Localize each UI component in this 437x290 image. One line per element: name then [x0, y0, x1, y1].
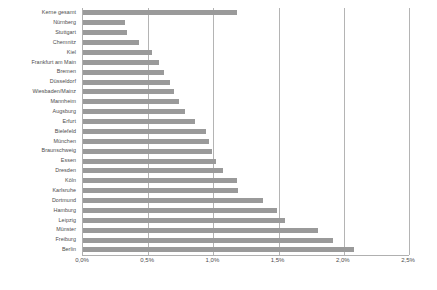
bar — [83, 40, 139, 45]
bar — [83, 139, 209, 144]
bar-row — [83, 215, 409, 225]
bar-row — [83, 136, 409, 146]
category-label: Mannheim — [0, 97, 79, 107]
bar — [83, 60, 159, 65]
category-label: Köln — [0, 176, 79, 186]
bar-row — [83, 18, 409, 28]
x-tick-label: 1,5% — [271, 257, 285, 263]
bar — [83, 89, 174, 94]
bar-row — [83, 186, 409, 196]
x-tick-label: 1,0% — [206, 257, 220, 263]
bar — [83, 80, 170, 85]
bar — [83, 149, 212, 154]
bar-series — [83, 8, 409, 255]
bar — [83, 159, 216, 164]
category-label: Kerne gesamt — [0, 8, 79, 18]
bar-row — [83, 245, 409, 255]
category-label: Stuttgart — [0, 28, 79, 38]
bar-row — [83, 146, 409, 156]
category-label: München — [0, 136, 79, 146]
category-label: Essen — [0, 156, 79, 166]
category-label: Chemnitz — [0, 38, 79, 48]
bar — [83, 247, 354, 252]
bar-row — [83, 28, 409, 38]
bar-row — [83, 107, 409, 117]
category-label: Dresden — [0, 166, 79, 176]
bar-row — [83, 48, 409, 58]
bar-row — [83, 8, 409, 18]
bar-row — [83, 235, 409, 245]
bar-row — [83, 117, 409, 127]
bar — [83, 168, 223, 173]
category-label: Bielefeld — [0, 127, 79, 137]
bar-row — [83, 97, 409, 107]
category-label: Nürnberg — [0, 18, 79, 28]
bar-row — [83, 67, 409, 77]
bar — [83, 129, 206, 134]
category-label: Hamburg — [0, 206, 79, 216]
category-axis-labels: Kerne gesamtNürnbergStuttgartChemnitzKie… — [0, 8, 79, 255]
bar-row — [83, 196, 409, 206]
bar — [83, 218, 285, 223]
category-label: Erfurt — [0, 117, 79, 127]
bar-row — [83, 225, 409, 235]
bar — [83, 10, 237, 15]
bar — [83, 238, 333, 243]
bar — [83, 208, 277, 213]
category-label: Düsseldorf — [0, 77, 79, 87]
bar — [83, 119, 195, 124]
bar-row — [83, 206, 409, 216]
category-label: Dortmund — [0, 196, 79, 206]
bar — [83, 50, 152, 55]
x-tick-label: 2,5% — [401, 257, 415, 263]
bar — [83, 198, 263, 203]
bar — [83, 70, 164, 75]
bar — [83, 109, 185, 114]
x-tick-label: 2,0% — [336, 257, 350, 263]
category-label: Braunschweig — [0, 146, 79, 156]
category-label: Frankfurt am Main — [0, 57, 79, 67]
bar — [83, 178, 237, 183]
bar-row — [83, 166, 409, 176]
bar-row — [83, 87, 409, 97]
bar — [83, 99, 179, 104]
value-axis-labels: 0,0%0,5%1,0%1,5%2,0%2,5% — [82, 257, 408, 271]
bar-row — [83, 176, 409, 186]
bar — [83, 20, 125, 25]
category-label: Augsburg — [0, 107, 79, 117]
bar-row — [83, 77, 409, 87]
category-label: Wiesbaden/Mainz — [0, 87, 79, 97]
x-tick-label: 0,5% — [140, 257, 154, 263]
bar-row — [83, 57, 409, 67]
category-label: Kiel — [0, 48, 79, 58]
bar-row — [83, 156, 409, 166]
bar — [83, 188, 238, 193]
gridline — [409, 8, 410, 255]
bar-row — [83, 38, 409, 48]
category-label: Karlsruhe — [0, 186, 79, 196]
bar-row — [83, 127, 409, 137]
category-label: Münster — [0, 225, 79, 235]
bar-chart: Kerne gesamtNürnbergStuttgartChemnitzKie… — [0, 0, 437, 290]
x-tick-label: 0,0% — [75, 257, 89, 263]
plot-area — [82, 8, 409, 256]
category-label: Freiburg — [0, 235, 79, 245]
bar — [83, 228, 318, 233]
category-label: Leipzig — [0, 215, 79, 225]
category-label: Berlin — [0, 245, 79, 255]
category-label: Bremen — [0, 67, 79, 77]
bar — [83, 30, 127, 35]
